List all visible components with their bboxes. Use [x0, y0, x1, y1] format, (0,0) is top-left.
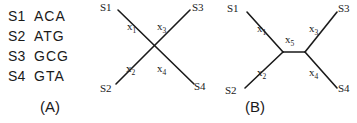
sequence-bases: GCG — [34, 46, 69, 66]
list-item: S2 ATG — [8, 26, 96, 46]
taxon-label-s3: S3 — [192, 1, 204, 13]
binary-tree-diagram: S1 S2 S3 S4 x1 x2 x3 x4 x5 — [225, 0, 357, 98]
panel-a-sequences: S1 ACA S2 ATG S3 GCG S4 GTA (A) — [0, 0, 100, 123]
figure-container: S1 ACA S2 ATG S3 GCG S4 GTA (A) — [0, 0, 357, 123]
branch-label-x3: x3 — [309, 22, 319, 37]
taxon-label-s2: S2 — [100, 82, 112, 94]
branch-label-x4: x4 — [309, 66, 319, 81]
sequence-bases: GTA — [34, 66, 65, 86]
sequence-name: S1 — [8, 6, 34, 26]
branch-label-x5: x5 — [285, 33, 295, 48]
branch-line-s2 — [245, 52, 283, 88]
sequence-name: S3 — [8, 46, 34, 66]
branch-label-x1: x1 — [127, 20, 137, 35]
panel-c-binary-tree: S1 S2 S3 S4 x1 x2 x3 x4 x5 (C) — [225, 0, 357, 123]
branch-label-x3: x3 — [157, 20, 167, 35]
sequence-bases: ACA — [34, 6, 66, 26]
list-item: S4 GTA — [8, 66, 96, 86]
taxon-label-s4: S4 — [338, 82, 350, 94]
sequence-list: S1 ACA S2 ATG S3 GCG S4 GTA — [8, 6, 96, 86]
list-item: S3 GCG — [8, 46, 96, 66]
taxon-label-s1: S1 — [227, 2, 239, 14]
panel-b-star-tree: S1 S2 S3 S4 x1 x2 x3 x4 (B) — [100, 0, 210, 123]
taxon-label-s3: S3 — [338, 2, 350, 14]
taxon-label-s4: S4 — [194, 80, 206, 92]
list-item: S1 ACA — [8, 6, 96, 26]
branch-label-x2: x2 — [126, 62, 136, 77]
taxon-label-s1: S1 — [100, 1, 112, 13]
star-tree-diagram: S1 S2 S3 S4 x1 x2 x3 x4 — [100, 0, 210, 98]
branch-label-x4: x4 — [157, 62, 167, 77]
taxon-label-s2: S2 — [225, 84, 237, 96]
branch-label-x1: x1 — [257, 22, 267, 37]
sequence-name: S4 — [8, 66, 34, 86]
panel-a-caption: (A) — [0, 98, 100, 115]
sequence-bases: ATG — [34, 26, 65, 46]
sequence-name: S2 — [8, 26, 34, 46]
